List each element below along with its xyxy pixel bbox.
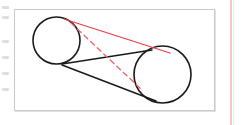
circles-group (33, 17, 191, 103)
margin-mark (2, 56, 9, 59)
margin-mark (2, 88, 9, 91)
left-margin-cutoff-text (0, 0, 13, 125)
margin-mark (2, 16, 9, 19)
geometry-diagram-svg (15, 10, 214, 110)
document-page (0, 0, 241, 125)
frame-right-shadow (215, 10, 216, 111)
frame-bottom-shadow (15, 111, 216, 112)
black-internal-tangent-lower (62, 65, 156, 101)
margin-mark (2, 6, 9, 9)
vertical-pink-rule-icon (230, 0, 232, 125)
figure-frame (14, 9, 215, 111)
right-circle (134, 46, 191, 103)
margin-mark (2, 40, 9, 43)
margin-mark (2, 72, 9, 75)
vertical-pink-rule-soft-icon (233, 0, 234, 125)
